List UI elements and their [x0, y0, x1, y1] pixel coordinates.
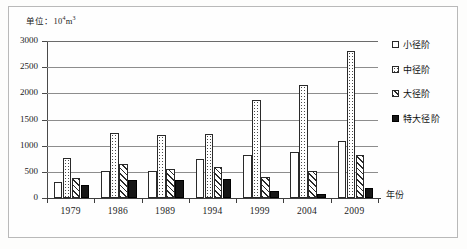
y-axis-tick — [42, 41, 47, 42]
legend-key-medium-icon — [392, 66, 399, 73]
y-axis-tick — [42, 120, 47, 121]
bar-group — [148, 41, 184, 198]
x-axis-tick — [94, 198, 95, 203]
legend-key-large-icon — [392, 90, 399, 97]
y-axis-tick — [42, 146, 47, 147]
y-axis-tick-label: 3000 — [4, 35, 38, 45]
y-axis-tick — [42, 172, 47, 173]
bar — [72, 178, 81, 198]
x-axis-tick-label: 1979 — [48, 206, 94, 216]
y-axis-tick-label: 500 — [4, 166, 38, 176]
x-axis-tick-label: 1994 — [190, 206, 236, 216]
bar — [356, 155, 365, 198]
bar — [214, 167, 223, 198]
bar — [63, 158, 72, 198]
bar — [223, 179, 232, 198]
x-axis-tick-label: 1989 — [142, 206, 188, 216]
bar — [261, 177, 270, 198]
x-axis-tick — [283, 198, 284, 203]
bar — [101, 171, 110, 198]
legend-item-label: 特大径阶 — [403, 112, 440, 125]
bar — [110, 133, 119, 198]
y-axis-tick-label: 2500 — [4, 61, 38, 71]
bar — [243, 155, 252, 198]
unit-text: 单位：10 — [26, 16, 63, 26]
x-axis-tick — [47, 198, 48, 203]
legend-item-label: 大径阶 — [403, 87, 431, 100]
x-axis-title: 年份 — [386, 188, 404, 201]
y-axis-tick-label: 1000 — [4, 140, 38, 150]
bar — [338, 141, 347, 198]
bar — [54, 182, 63, 198]
chart-figure: 单位：104m3 050010001500200025003000 197919… — [0, 0, 467, 249]
bar-group — [338, 41, 374, 198]
chart-legend: 小径阶中径阶大径阶特大径阶 — [392, 38, 462, 136]
legend-item[interactable]: 大径阶 — [392, 87, 462, 100]
x-axis-tick-label: 2009 — [331, 206, 377, 216]
legend-item-label: 中径阶 — [403, 63, 431, 76]
bar-group — [243, 41, 279, 198]
bar — [119, 164, 128, 198]
x-axis-labels: 1979198619891994199920042009 — [47, 206, 378, 222]
x-axis-tick — [142, 198, 143, 203]
bar — [290, 152, 299, 198]
plot-area — [47, 41, 378, 198]
bar-group — [196, 41, 232, 198]
bar — [308, 171, 317, 198]
unit-tail: m — [66, 16, 73, 26]
legend-item-label: 小径阶 — [403, 38, 431, 51]
y-axis-tick-label: 0 — [4, 192, 38, 202]
bar-group — [290, 41, 326, 198]
bar — [196, 159, 205, 198]
y-axis-tick — [42, 67, 47, 68]
bar-group — [54, 41, 90, 198]
legend-item[interactable]: 小径阶 — [392, 38, 462, 51]
bar — [365, 188, 374, 198]
legend-item[interactable]: 特大径阶 — [392, 112, 462, 125]
x-axis-tick — [236, 198, 237, 203]
x-axis-tick — [378, 198, 379, 203]
legend-key-extralarge-icon — [392, 115, 399, 122]
x-axis-tick — [189, 198, 190, 203]
bar — [299, 85, 308, 198]
unit-tail-exponent: 3 — [73, 15, 76, 21]
x-axis-tick — [331, 198, 332, 203]
x-axis-tick-label: 1986 — [95, 206, 141, 216]
bar — [148, 171, 157, 198]
y-axis-tick-label: 1500 — [4, 114, 38, 124]
bar — [166, 169, 175, 198]
y-axis-tick — [42, 93, 47, 94]
bar — [347, 51, 356, 198]
legend-key-small-icon — [392, 41, 399, 48]
x-axis-tick-label: 1999 — [237, 206, 283, 216]
bar — [157, 135, 166, 198]
bar — [205, 134, 214, 198]
bar-group — [101, 41, 137, 198]
unit-caption: 单位：104m3 — [26, 14, 76, 26]
y-axis-tick-label: 2000 — [4, 87, 38, 97]
bar — [81, 185, 90, 198]
bar — [175, 180, 184, 198]
y-axis-labels: 050010001500200025003000 — [4, 41, 38, 198]
legend-item[interactable]: 中径阶 — [392, 63, 462, 76]
bar — [128, 180, 137, 198]
bar — [252, 100, 261, 198]
bar — [270, 191, 279, 198]
x-axis-tick-label: 2004 — [284, 206, 330, 216]
